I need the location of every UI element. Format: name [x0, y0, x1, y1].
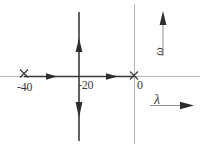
locus-arrow-up-icon — [76, 38, 83, 52]
locus-arrow-right-2-icon — [106, 73, 118, 80]
root-locus-canvas — [0, 0, 200, 146]
omega-axis-label: ω — [152, 47, 167, 55]
lambda-axis-label: λ — [154, 92, 160, 108]
tick-label-minus20: -20 — [78, 78, 93, 93]
tick-label-zero: 0 — [137, 78, 143, 93]
locus-arrow-right-1-icon — [46, 73, 57, 80]
root-locus-figure: -40 -20 0 ω λ — [0, 0, 200, 146]
locus-arrow-down-icon — [76, 102, 83, 118]
tick-label-minus40: -40 — [17, 80, 32, 95]
